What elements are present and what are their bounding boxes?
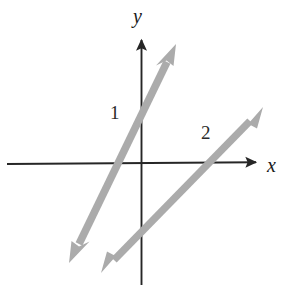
coordinate-plane-figure: y x 1 2 [0,0,286,285]
steep-line-group [69,44,176,263]
x-intercept-label: 2 [201,123,211,142]
x-axis-label: x [267,155,276,175]
y-intercept-label: 1 [110,103,120,122]
steep-line-lower-arrowhead [69,241,90,263]
shallow-line-group [101,107,263,273]
x-axis [7,162,256,164]
axes-group [7,40,256,285]
y-axis-label: y [133,6,142,26]
shallow-line-upper-arrowhead [241,107,263,132]
figure-canvas [0,0,286,285]
shallow-line-lower-arrowhead [101,248,123,273]
shallow-line-segment [114,121,250,260]
